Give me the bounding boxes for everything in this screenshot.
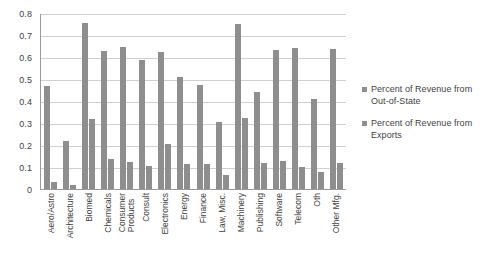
bar	[292, 48, 298, 189]
y-axis-labels: 00.10.20.30.40.50.60.70.8	[0, 14, 36, 190]
x-axis-tick-label: Publishing	[256, 193, 265, 232]
bar-group	[327, 14, 346, 189]
bar	[101, 51, 107, 189]
legend-swatch-icon	[362, 121, 367, 126]
x-axis-tick-label-line: Machinery	[236, 193, 246, 232]
bar	[108, 159, 114, 189]
bar	[158, 52, 164, 189]
x-axis-tick-label-line: Publishing	[255, 193, 265, 232]
x-axis-tick-label-line: Architecture	[64, 193, 74, 238]
x-axis-tick-label-line: Biomed	[83, 193, 93, 222]
bar-group	[155, 14, 174, 189]
x-axis-tick-label-line: Finance	[198, 193, 208, 223]
y-axis-tick-label: 0.7	[19, 31, 32, 41]
x-axis-label-cell: Law, Misc.	[213, 192, 232, 252]
x-axis-tick-label: Software	[275, 193, 284, 227]
y-axis-tick-label: 0.4	[19, 97, 32, 107]
y-axis-tick-label: 0.1	[19, 163, 32, 173]
x-axis-tick-label: Architecture	[65, 193, 74, 238]
x-axis-label-cell: Telecom	[289, 192, 308, 252]
bar-group	[289, 14, 308, 189]
x-axis-label-cell: Electronics	[155, 192, 174, 252]
bar	[223, 175, 229, 189]
bar	[184, 164, 190, 189]
x-axis-tick-label: Finance	[199, 193, 208, 223]
x-axis-label-cell: Publishing	[251, 192, 270, 252]
x-axis-tick-label-line: Other Mfg.	[331, 193, 341, 233]
y-axis-tick-label: 0.5	[19, 75, 32, 85]
bar	[146, 166, 152, 189]
y-axis-tick-label: 0.6	[19, 53, 32, 63]
bar-group	[117, 14, 136, 189]
bar	[242, 118, 248, 189]
x-axis-tick-label: Machinery	[237, 193, 246, 232]
bar-group	[194, 14, 213, 189]
bar	[235, 24, 241, 189]
x-axis-tick-label-line: Law, Misc.	[217, 193, 227, 233]
bar-group	[251, 14, 270, 189]
x-axis-tick-label: Other Mfg.	[332, 193, 341, 233]
bar	[254, 92, 260, 189]
x-axis-tick-label: Consult	[141, 193, 150, 222]
x-axis-tick-label-line: Oth	[312, 193, 322, 207]
x-axis-label-cell: Energy	[174, 192, 193, 252]
bar-group	[79, 14, 98, 189]
x-axis-tick-label-line: Aero/Astro	[45, 193, 55, 233]
bar	[311, 99, 317, 189]
legend-item[interactable]: Percent of Revenue fromOut-of-State	[362, 83, 484, 107]
x-axis-tick-label-line: Products	[127, 193, 136, 232]
bar-group	[41, 14, 60, 189]
bar	[165, 144, 171, 189]
x-axis-tick-label-line: Electronics	[159, 193, 169, 235]
bar-group	[232, 14, 251, 189]
x-axis-label-cell: Finance	[194, 192, 213, 252]
x-axis-tick-label-line: Telecom	[293, 193, 303, 225]
bar	[120, 47, 126, 189]
x-axis-tick-label: Law, Misc.	[218, 193, 227, 233]
bar	[318, 172, 324, 190]
x-axis-tick-label-line: Chemicals	[102, 193, 112, 233]
x-axis-label-cell: Machinery	[232, 192, 251, 252]
x-axis-tick-label: Telecom	[294, 193, 303, 225]
legend-swatch-icon	[362, 87, 367, 92]
bar	[89, 119, 95, 189]
x-axis-line	[40, 189, 346, 190]
legend-label: Percent of Revenue fromOut-of-State	[371, 83, 472, 107]
y-axis-tick-label: 0.8	[19, 9, 32, 19]
bar	[177, 77, 183, 189]
bar	[197, 85, 203, 189]
x-axis-tick-label: Oth	[313, 193, 322, 207]
bar	[63, 141, 69, 189]
bar	[299, 167, 305, 189]
bar-group	[213, 14, 232, 189]
bars-layer	[41, 14, 346, 189]
bar-group	[98, 14, 117, 189]
chart-legend: Percent of Revenue fromOut-of-StatePerce…	[362, 83, 484, 151]
x-axis-label-cell: Consult	[136, 192, 155, 252]
bar-group	[270, 14, 289, 189]
bar-group	[308, 14, 327, 189]
x-axis-tick-label: Aero/Astro	[46, 193, 55, 233]
bar	[337, 163, 343, 189]
bar	[127, 162, 133, 189]
x-axis-tick-label: Energy	[179, 193, 188, 220]
bar	[273, 50, 279, 189]
x-axis-tick-label-line: Energy	[178, 193, 188, 220]
legend-label: Percent of Revenue fromExports	[371, 117, 472, 141]
y-axis-tick-label: 0.3	[19, 119, 32, 129]
x-axis-labels: Aero/AstroArchitectureBiomedChemicalsCon…	[41, 192, 346, 252]
x-axis-label-cell: Aero/Astro	[41, 192, 60, 252]
x-axis-label-cell: Software	[270, 192, 289, 252]
bar	[51, 182, 57, 189]
x-axis-tick-label: Electronics	[160, 193, 169, 235]
bar	[82, 23, 88, 189]
x-axis-tick-label: ConsumerProducts	[118, 193, 136, 232]
bar	[44, 86, 50, 189]
bar-group	[136, 14, 155, 189]
bar-group	[174, 14, 193, 189]
x-axis-tick-label-line: Consult	[140, 193, 150, 222]
bar-group	[60, 14, 79, 189]
legend-item[interactable]: Percent of Revenue fromExports	[362, 117, 484, 141]
x-axis-label-cell: Chemicals	[98, 192, 117, 252]
x-axis-tick-label-line: Software	[274, 193, 284, 227]
